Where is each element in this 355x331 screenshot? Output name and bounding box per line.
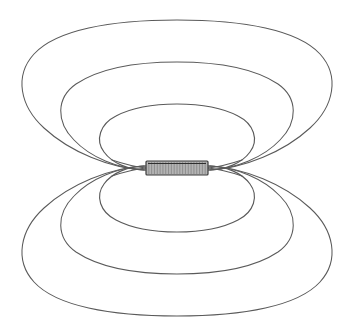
inner-loop-upper-line xyxy=(100,104,255,170)
tail-right-lower-a xyxy=(208,168,242,176)
tail-right-upper-a xyxy=(208,160,242,168)
upper-field-lines xyxy=(22,20,332,170)
tail-left-upper-a xyxy=(112,160,146,168)
tail-left-lower-a xyxy=(112,168,146,176)
outer-loop-lower-line xyxy=(22,166,332,316)
outer-loop-upper-line xyxy=(22,20,332,170)
inner-loop-lower-line xyxy=(100,166,255,232)
lower-field-lines xyxy=(22,166,332,316)
solenoid-field-diagram: Magnetic field of a current-carrying coi… xyxy=(0,0,355,331)
middle-loop-lower-line xyxy=(61,166,294,274)
solenoid-coil-group xyxy=(146,161,208,175)
magnetic-field-svg xyxy=(0,0,355,331)
middle-loop-upper-line xyxy=(61,62,294,170)
